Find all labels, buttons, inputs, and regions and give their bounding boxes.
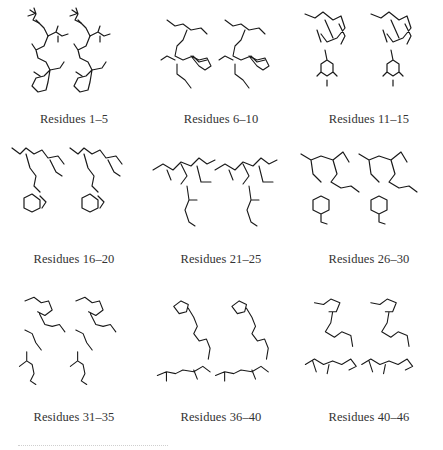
panel-caption: Residues 40–46 bbox=[295, 410, 443, 425]
panel-caption: Residues 1–5 bbox=[0, 112, 148, 127]
panel-residues-1-5: Residues 1–5 bbox=[0, 0, 148, 140]
panel-residues-36-40: Residues 36–40 bbox=[147, 290, 295, 430]
stereo-molecule-image bbox=[0, 0, 148, 100]
stereo-molecule-image bbox=[147, 290, 295, 390]
stereo-figure-grid: Residues 1–5 Residues 6–10 Res bbox=[0, 0, 443, 440]
stereo-molecule-image bbox=[147, 140, 295, 240]
panel-caption: Residues 31–35 bbox=[0, 410, 148, 425]
stereo-molecule-image bbox=[0, 140, 148, 240]
stereo-molecule-image bbox=[295, 290, 443, 390]
panel-residues-16-20: Residues 16–20 bbox=[0, 140, 148, 280]
stereo-molecule-image bbox=[295, 0, 443, 100]
stereo-molecule-image bbox=[147, 0, 295, 100]
truncated-figure-caption bbox=[18, 445, 168, 450]
panel-caption: Residues 11–15 bbox=[295, 112, 443, 127]
stereo-molecule-image bbox=[295, 140, 443, 240]
panel-residues-11-15: Residues 11–15 bbox=[295, 0, 443, 140]
panel-caption: Residues 16–20 bbox=[0, 252, 148, 267]
stereo-molecule-image bbox=[0, 290, 148, 390]
panel-caption: Residues 6–10 bbox=[147, 112, 295, 127]
panel-residues-21-25: Residues 21–25 bbox=[147, 140, 295, 280]
panel-caption: Residues 21–25 bbox=[147, 252, 295, 267]
panel-caption: Residues 36–40 bbox=[147, 410, 295, 425]
panel-caption: Residues 26–30 bbox=[295, 252, 443, 267]
panel-residues-40-46: Residues 40–46 bbox=[295, 290, 443, 430]
panel-residues-26-30: Residues 26–30 bbox=[295, 140, 443, 280]
panel-residues-6-10: Residues 6–10 bbox=[147, 0, 295, 140]
panel-residues-31-35: Residues 31–35 bbox=[0, 290, 148, 430]
